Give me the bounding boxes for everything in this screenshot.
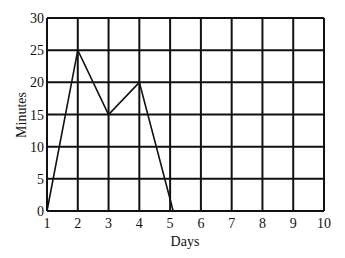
y-tick-label: 20 — [30, 75, 44, 90]
y-tick-label: 10 — [30, 140, 44, 155]
x-axis-ticks: 12345678910 — [44, 216, 332, 231]
chart-grid — [47, 18, 324, 211]
x-axis-label: Days — [171, 234, 200, 249]
x-tick-label: 9 — [290, 216, 297, 231]
y-tick-label: 25 — [30, 43, 44, 58]
y-tick-label: 30 — [30, 11, 44, 26]
y-tick-label: 5 — [37, 172, 44, 187]
x-tick-label: 3 — [105, 216, 112, 231]
x-tick-label: 4 — [136, 216, 143, 231]
y-axis-label: Minutes — [14, 92, 29, 138]
x-tick-label: 2 — [74, 216, 81, 231]
x-tick-label: 7 — [228, 216, 235, 231]
y-tick-label: 15 — [30, 108, 44, 123]
x-tick-label: 6 — [197, 216, 204, 231]
x-tick-label: 10 — [317, 216, 331, 231]
x-tick-label: 1 — [44, 216, 51, 231]
x-tick-label: 5 — [167, 216, 174, 231]
data-line — [47, 50, 324, 211]
x-tick-label: 8 — [259, 216, 266, 231]
line-chart: 051015202530 12345678910 Days Minutes — [0, 0, 345, 258]
y-axis-ticks: 051015202530 — [30, 11, 44, 219]
